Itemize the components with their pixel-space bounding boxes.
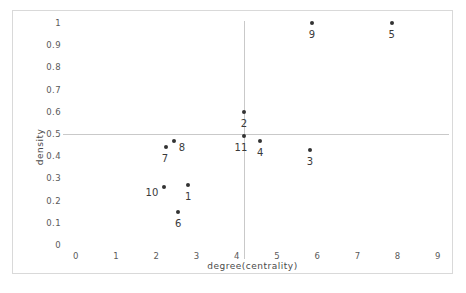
data-point-label: 1: [185, 191, 192, 202]
y-tick-label: 0.3: [31, 173, 61, 183]
horizontal-reference-line: [63, 134, 449, 135]
x-tick-label: 2: [154, 251, 160, 261]
x-tick-label: 8: [395, 251, 401, 261]
data-point-label: 3: [307, 156, 314, 167]
data-point: [258, 139, 262, 143]
plot-area: 00.10.20.30.40.50.60.70.80.9101234567891…: [13, 11, 454, 275]
vertical-reference-line: [244, 21, 245, 259]
data-point: [172, 139, 176, 143]
y-tick-label: 0.9: [31, 40, 61, 50]
data-point-label: 9: [309, 29, 316, 40]
x-axis-title: degree(centrality): [13, 261, 452, 271]
data-point: [242, 110, 246, 114]
y-tick-label: 1: [31, 18, 61, 28]
data-point: [310, 21, 314, 25]
y-tick-label: 0.7: [31, 85, 61, 95]
data-point: [162, 185, 166, 189]
data-point: [308, 148, 312, 152]
x-tick-label: 9: [435, 251, 441, 261]
data-point-label: 7: [162, 153, 169, 164]
x-tick-label: 1: [113, 251, 119, 261]
data-point: [176, 210, 180, 214]
x-tick-label: 7: [355, 251, 361, 261]
x-tick-label: 5: [274, 251, 280, 261]
x-tick-label: 6: [314, 251, 320, 261]
x-tick-label: 4: [234, 251, 240, 261]
plot-frame: 00.10.20.30.40.50.60.70.80.9101234567891…: [12, 10, 453, 274]
data-point: [164, 145, 168, 149]
data-point-label: 5: [388, 29, 395, 40]
x-tick-label: 0: [73, 251, 79, 261]
data-point-label: 10: [146, 187, 159, 198]
data-point-label: 4: [257, 147, 264, 158]
y-tick-label: 0.8: [31, 62, 61, 72]
y-tick-label: 0.2: [31, 196, 61, 206]
data-point: [390, 21, 394, 25]
y-axis-title: density: [35, 129, 45, 166]
data-point: [242, 134, 246, 138]
data-point-label: 6: [175, 218, 182, 229]
data-point-label: 2: [241, 118, 248, 129]
data-point: [186, 183, 190, 187]
data-point-label: 11: [235, 142, 248, 153]
y-tick-label: 0.1: [31, 218, 61, 228]
scatter-chart-figure: 00.10.20.30.40.50.60.70.80.9101234567891…: [0, 0, 466, 293]
data-point-label: 8: [179, 142, 186, 153]
y-tick-label: 0: [31, 240, 61, 250]
x-tick-label: 3: [194, 251, 200, 261]
y-tick-label: 0.6: [31, 107, 61, 117]
